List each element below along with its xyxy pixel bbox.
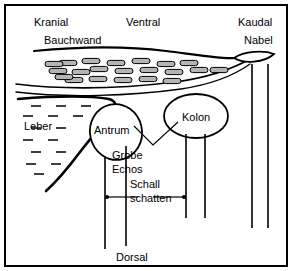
- fat-lobule: [90, 66, 108, 71]
- annotation-grobe-echos-line2: Echos: [112, 163, 143, 175]
- fat-lobule: [115, 68, 133, 73]
- fat-lobule: [107, 60, 125, 65]
- label-leber: Leber: [24, 120, 52, 132]
- diagram-frame: Kranial Ventral Kaudal Dorsal Bauchwand …: [0, 0, 292, 271]
- label-kaudal: Kaudal: [238, 16, 272, 28]
- fat-lobule: [132, 58, 150, 63]
- nabel-shape: [234, 52, 274, 62]
- fat-lobule: [89, 76, 107, 81]
- fat-lobule: [180, 60, 198, 65]
- fat-lobule: [82, 58, 100, 63]
- schallschatten-arrow-head: [105, 195, 109, 199]
- annotation-schallschatten-line2: schatten: [130, 192, 172, 204]
- label-nabel: Nabel: [244, 34, 273, 46]
- annotation-grobe-echos-line1: Grobe: [112, 149, 143, 161]
- fat-lobule: [72, 69, 90, 74]
- fat-lobule: [55, 74, 73, 79]
- fat-lobule: [114, 77, 132, 82]
- label-antrum: Antrum: [94, 124, 129, 136]
- liver-echo-group: [23, 106, 91, 174]
- label-kolon: Kolon: [182, 111, 210, 123]
- fat-lobule-group: [45, 58, 228, 83]
- diagram-canvas: Kranial Ventral Kaudal Dorsal Bauchwand …: [4, 4, 288, 267]
- fat-lobule: [190, 67, 208, 72]
- fat-lobule: [140, 67, 158, 72]
- label-dorsal: Dorsal: [116, 251, 148, 263]
- fat-lobule: [45, 61, 63, 66]
- annotation-schallschatten-line1: Schall: [130, 178, 160, 190]
- label-kranial: Kranial: [34, 16, 68, 28]
- label-ventral: Ventral: [126, 16, 160, 28]
- fat-lobule: [163, 78, 181, 83]
- fat-lobule: [165, 69, 183, 74]
- fat-lobule: [210, 67, 228, 72]
- schallschatten-arrow-head: [182, 195, 186, 199]
- fat-lobule: [139, 76, 157, 81]
- label-bauchwand: Bauchwand: [44, 34, 102, 46]
- fat-lobule: [157, 61, 175, 66]
- fat-lobule: [49, 68, 67, 73]
